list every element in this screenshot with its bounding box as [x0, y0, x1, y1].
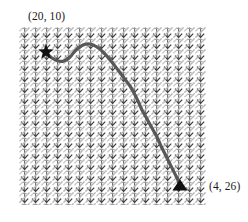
- plot-area: [19, 27, 206, 205]
- trajectory-path: [46, 44, 180, 185]
- end-point-label: (4, 26): [209, 181, 240, 193]
- trajectory-layer: [19, 27, 206, 205]
- start-point-label: (20, 10): [28, 11, 65, 23]
- goal-marker-triangle-icon: [172, 179, 187, 190]
- vector-field-figure: (20, 10) (4, 26): [0, 0, 248, 222]
